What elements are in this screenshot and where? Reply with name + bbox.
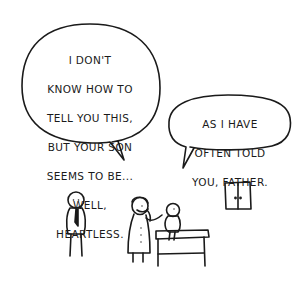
doctor-line: TELL YOU THIS,: [30, 111, 150, 126]
examination-table: [156, 230, 209, 266]
doctor-line: BUT YOUR SON: [30, 140, 150, 155]
son-line: AS I HAVE: [176, 117, 284, 132]
son-line: OFTEN TOLD: [176, 146, 284, 161]
doctor-line: HEARTLESS.: [30, 227, 150, 242]
son-figure: [165, 204, 180, 241]
comic-panel: I DON'T KNOW HOW TO TELL YOU THIS, BUT Y…: [0, 0, 294, 287]
doctor-line: KNOW HOW TO: [30, 82, 150, 97]
doctor-line: I DON'T: [30, 53, 150, 68]
speech-bubble-doctor-text: I DON'T KNOW HOW TO TELL YOU THIS, BUT Y…: [30, 38, 150, 256]
speech-bubble-son-text: AS I HAVE OFTEN TOLD YOU, FATHER.: [176, 102, 284, 204]
doctor-line: WELL,: [30, 198, 150, 213]
doctor-line: SEEMS TO BE...: [30, 169, 150, 184]
son-line: YOU, FATHER.: [176, 175, 284, 190]
